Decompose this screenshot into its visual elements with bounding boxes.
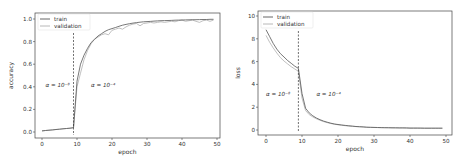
accuracy-chart: 010203040500.00.20.40.60.81.0epochaccura… xyxy=(7,13,221,156)
legend-label-validation: validation xyxy=(277,21,305,27)
x-tick-label: 50 xyxy=(213,141,221,147)
y-axis-label: loss xyxy=(234,67,241,79)
learning-rate-annotation: α = 10⁻⁸ xyxy=(46,82,71,88)
loss-chart: 010203040500246810epochlossα = 10⁻⁸α = 1… xyxy=(234,11,452,153)
y-tick-label: 0 xyxy=(251,127,255,133)
x-tick-label: 40 xyxy=(178,141,186,147)
series-line-validation xyxy=(42,20,214,131)
x-axis-label: epoch xyxy=(118,148,136,156)
x-tick-label: 10 xyxy=(73,141,81,147)
y-tick-label: 0.8 xyxy=(23,39,32,45)
y-tick-label: 4 xyxy=(251,81,255,87)
y-axis-label: accuracy xyxy=(7,62,15,90)
y-tick-label: 0.6 xyxy=(23,61,32,67)
x-tick-label: 20 xyxy=(334,138,342,144)
series-line-train xyxy=(266,30,442,129)
x-tick-label: 20 xyxy=(108,141,116,147)
y-tick-label: 8 xyxy=(251,36,255,42)
y-tick-label: 0.4 xyxy=(23,84,32,90)
y-tick-label: 6 xyxy=(251,59,255,65)
figure: 010203040500.00.20.40.60.81.0epochaccura… xyxy=(0,0,462,164)
y-tick-label: 0.0 xyxy=(23,129,32,135)
x-tick-label: 0 xyxy=(264,138,268,144)
legend-label-train: train xyxy=(54,16,67,22)
x-tick-label: 30 xyxy=(143,141,151,147)
series-line-validation xyxy=(266,35,442,128)
learning-rate-annotation: α = 10⁻⁴ xyxy=(91,82,116,88)
x-tick-label: 0 xyxy=(40,141,44,147)
x-tick-label: 50 xyxy=(442,138,450,144)
learning-rate-annotation: α = 10⁻⁴ xyxy=(316,91,341,97)
x-axis-label: epoch xyxy=(346,145,364,153)
y-tick-label: 1.0 xyxy=(23,16,32,22)
y-tick-label: 2 xyxy=(251,104,255,110)
legend-label-train: train xyxy=(277,14,290,20)
y-tick-label: 0.2 xyxy=(23,106,32,112)
x-tick-label: 40 xyxy=(406,138,414,144)
x-tick-label: 30 xyxy=(370,138,378,144)
axes-frame xyxy=(258,11,452,135)
y-tick-label: 10 xyxy=(248,13,256,19)
x-tick-label: 10 xyxy=(298,138,306,144)
learning-rate-annotation: α = 10⁻⁸ xyxy=(266,91,291,97)
series-line-train xyxy=(42,19,214,131)
axes-frame xyxy=(35,13,220,138)
legend-label-validation: validation xyxy=(54,23,82,29)
